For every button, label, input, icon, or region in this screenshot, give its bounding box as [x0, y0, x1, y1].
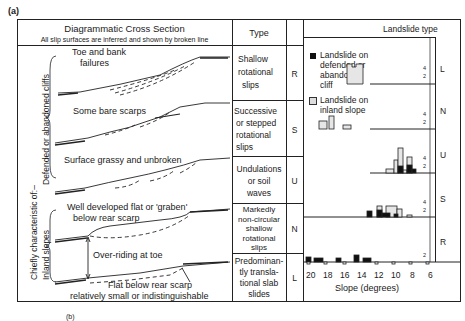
- svg-text:2: 2: [423, 163, 426, 169]
- cross-section-sketches: [55, 57, 230, 284]
- brace-icons: [46, 56, 56, 282]
- hist-U: [386, 148, 416, 173]
- hist-N: [319, 116, 351, 129]
- hist-L: [347, 64, 363, 84]
- svg-text:2: 2: [423, 73, 426, 79]
- svg-text:4: 4: [423, 199, 426, 205]
- svg-text:4: 4: [423, 111, 426, 117]
- hist-R: [306, 255, 429, 264]
- svg-text:2: 2: [423, 207, 426, 213]
- hist-S: [367, 206, 412, 217]
- chart-axes: [303, 37, 461, 262]
- svg-text:2: 2: [423, 252, 426, 258]
- svg-text:2: 2: [423, 119, 426, 125]
- diagram-drawing: 42 42 42 42 2: [0, 0, 465, 321]
- next-panel-label: (b): [66, 312, 75, 321]
- svg-text:4: 4: [423, 155, 426, 161]
- svg-text:4: 4: [423, 65, 426, 71]
- y-tick-labels: 42 42 42 42 2: [423, 65, 426, 258]
